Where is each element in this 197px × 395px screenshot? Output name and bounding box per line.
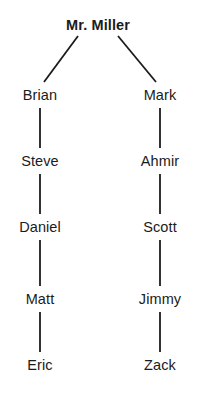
tree-node-l4: Matt bbox=[26, 292, 55, 307]
tree-node-root: Mr. Miller bbox=[66, 18, 130, 33]
tree-node-l2: Steve bbox=[21, 154, 59, 169]
tree-connector-lines bbox=[0, 0, 197, 395]
tree-node-r2: Ahmir bbox=[141, 154, 179, 169]
tree-node-r3: Scott bbox=[143, 220, 177, 235]
tree-edge-root-to-r1 bbox=[118, 36, 156, 82]
tree-node-r1: Mark bbox=[144, 88, 177, 103]
tree-node-r5: Zack bbox=[144, 358, 176, 373]
tree-node-r4: Jimmy bbox=[139, 292, 181, 307]
tree-edge-root-to-l1 bbox=[44, 36, 78, 82]
family-tree-diagram: Mr. MillerBrianSteveDanielMattEricMarkAh… bbox=[0, 0, 197, 395]
tree-node-l5: Eric bbox=[27, 358, 52, 373]
tree-node-l3: Daniel bbox=[19, 220, 61, 235]
tree-node-l1: Brian bbox=[23, 88, 57, 103]
